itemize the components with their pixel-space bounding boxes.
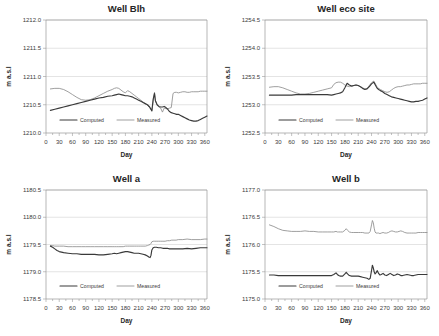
x-tick-label: 30	[275, 305, 282, 311]
series-line-measured	[50, 239, 207, 247]
x-tick-label: 270	[380, 305, 391, 311]
x-tick-label: 210	[134, 305, 145, 311]
x-tick-label: 120	[94, 305, 105, 311]
x-tick-label: 180	[340, 305, 351, 311]
x-tick-label: 330	[187, 305, 198, 311]
x-tick-label: 270	[160, 139, 171, 145]
x-tick-label: 150	[327, 305, 338, 311]
x-tick-label: 90	[82, 305, 89, 311]
y-tick-label: 1211.5	[23, 45, 42, 51]
x-tick-label: 30	[275, 139, 282, 145]
series-line-measured	[269, 81, 427, 94]
x-tick-label: 150	[327, 139, 338, 145]
x-tick-label: 0	[44, 139, 48, 145]
y-tick-label: 1180.0	[23, 214, 42, 220]
chart-svg-well-blh: Well Blh1210.01210.51211.01211.51212.003…	[0, 0, 219, 170]
y-axis-title: m a.s.l	[224, 66, 231, 86]
x-tick-label: 0	[263, 305, 267, 311]
y-tick-label: 1252.5	[242, 130, 261, 136]
legend-label-measured: Measured	[137, 283, 160, 289]
y-tick-label: 1175.0	[242, 296, 261, 302]
chart-panel-well-b: Well b1175.01175.51176.01176.51177.00306…	[219, 170, 439, 336]
x-tick-label: 60	[69, 139, 76, 145]
legend-label-measured: Measured	[356, 283, 379, 289]
y-tick-label: 1178.5	[23, 296, 42, 302]
x-tick-label: 360	[420, 305, 431, 311]
chart-svg-well-eco-site: Well eco site1252.51253.01253.51254.0125…	[219, 0, 439, 170]
chart-panel-well-a: Well a1178.51179.01179.51180.01180.50306…	[0, 170, 219, 336]
chart-svg-well-b: Well b1175.01175.51176.01176.51177.00306…	[219, 170, 439, 336]
y-axis-title: m a.s.l	[5, 234, 12, 254]
x-tick-label: 120	[94, 139, 105, 145]
chart-title-well-blh: Well Blh	[108, 3, 145, 14]
y-tick-label: 1176.0	[242, 242, 261, 248]
chart-svg-well-a: Well a1178.51179.01179.51180.01180.50306…	[0, 170, 219, 336]
x-tick-label: 210	[353, 305, 364, 311]
x-axis-title: Day	[121, 151, 133, 159]
x-axis-title: Day	[340, 317, 352, 325]
y-tick-label: 1179.5	[23, 242, 42, 248]
x-tick-label: 210	[134, 139, 145, 145]
chart-title-well-b: Well b	[332, 173, 360, 184]
y-tick-label: 1177.0	[242, 187, 261, 193]
y-tick-label: 1254.5	[242, 17, 261, 23]
y-tick-label: 1176.5	[242, 214, 261, 220]
y-tick-label: 1180.5	[23, 187, 42, 193]
y-axis-title: m a.s.l	[5, 66, 12, 86]
x-tick-label: 120	[313, 139, 324, 145]
x-tick-label: 60	[288, 139, 295, 145]
x-tick-label: 240	[147, 139, 158, 145]
x-tick-label: 360	[420, 139, 431, 145]
y-tick-label: 1212.0	[23, 17, 42, 23]
x-tick-label: 180	[120, 139, 131, 145]
legend-label-computed: Computed	[299, 283, 323, 289]
y-tick-label: 1211.0	[23, 74, 42, 80]
y-axis-title: m a.s.l	[224, 234, 231, 254]
legend-label-computed: Computed	[299, 117, 323, 123]
x-axis-title: Day	[340, 151, 352, 159]
y-tick-label: 1210.0	[23, 130, 42, 136]
chart-panel-well-blh: Well Blh1210.01210.51211.01211.51212.003…	[0, 0, 219, 170]
x-tick-label: 360	[200, 139, 211, 145]
y-tick-label: 1210.5	[23, 102, 42, 108]
x-tick-label: 270	[380, 139, 391, 145]
chart-title-well-a: Well a	[113, 173, 141, 184]
x-tick-label: 330	[187, 139, 198, 145]
x-tick-label: 30	[56, 305, 63, 311]
legend-label-computed: Computed	[80, 283, 104, 289]
x-tick-label: 90	[302, 305, 309, 311]
charts-grid: Well Blh1210.01210.51211.01211.51212.003…	[0, 0, 439, 336]
x-tick-label: 180	[120, 305, 131, 311]
y-tick-label: 1175.5	[242, 269, 261, 275]
legend-label-measured: Measured	[356, 117, 379, 123]
x-axis-title: Day	[121, 317, 133, 325]
x-tick-label: 300	[393, 305, 404, 311]
y-tick-label: 1254.0	[242, 45, 261, 51]
series-line-computed	[50, 246, 207, 257]
chart-title-well-eco-site: Well eco site	[317, 3, 374, 14]
series-line-computed	[50, 93, 207, 121]
legend-label-measured: Measured	[137, 117, 160, 123]
x-tick-label: 120	[313, 305, 324, 311]
y-tick-label: 1253.0	[242, 102, 261, 108]
x-tick-label: 300	[173, 139, 184, 145]
chart-panel-well-eco-site: Well eco site1252.51253.01253.51254.0125…	[219, 0, 439, 170]
x-tick-label: 0	[263, 139, 267, 145]
y-tick-label: 1179.0	[23, 269, 42, 275]
x-tick-label: 360	[200, 305, 211, 311]
x-tick-label: 210	[353, 139, 364, 145]
x-tick-label: 30	[56, 139, 63, 145]
x-tick-label: 180	[340, 139, 351, 145]
x-tick-label: 240	[367, 305, 378, 311]
x-tick-label: 150	[107, 305, 118, 311]
x-tick-label: 60	[69, 305, 76, 311]
x-tick-label: 0	[44, 305, 48, 311]
series-line-computed	[269, 265, 427, 279]
x-tick-label: 270	[160, 305, 171, 311]
x-tick-label: 300	[393, 139, 404, 145]
y-tick-label: 1253.5	[242, 74, 261, 80]
x-tick-label: 90	[82, 139, 89, 145]
x-tick-label: 300	[173, 305, 184, 311]
series-line-measured	[269, 221, 427, 234]
x-tick-label: 60	[288, 305, 295, 311]
